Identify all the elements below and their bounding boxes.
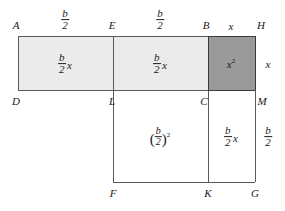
dimension-label-MG: b 2 [264,125,272,149]
vertex-label-G: G [251,188,259,199]
vertex-label-C: C [200,96,207,107]
diagram-canvas [0,0,285,211]
fraction-b-over-2: b 2 [61,8,69,32]
area-factor-x: x [232,132,238,144]
vertex-label-B: B [203,20,210,31]
vertex-label-K: K [204,188,211,199]
dimension-label-EB: b 2 [156,8,164,32]
area-label-CKGM: b 2 x [224,125,238,149]
geometry-diagram: A E B H D L C M F K G b 2 b 2 x x b 2 b … [0,0,285,211]
area-factor-x: x [66,59,72,71]
area-label-LFKC: ( b 2 )2 [150,126,171,148]
dimension-label-AE: b 2 [61,8,69,32]
area-factor-x: x [161,59,167,71]
vertex-label-D: D [12,96,20,107]
fraction-b-over-2: b 2 [153,52,161,76]
fraction-b-over-2: b 2 [155,126,162,148]
vertex-label-E: E [109,20,116,31]
area-exponent-2: 2 [232,57,236,65]
fraction-b-over-2: b 2 [224,125,232,149]
fraction-b-over-2: b 2 [264,125,272,149]
vertex-label-H: H [257,20,265,31]
vertex-label-A: A [13,20,20,31]
vertex-label-L: L [109,96,115,107]
dimension-label-HM: x [266,59,271,70]
area-label-ADLE: b 2 x [58,52,72,76]
fraction-b-over-2: b 2 [156,8,164,32]
vertex-label-F: F [110,188,117,199]
area-exponent-2: 2 [167,131,171,139]
vertex-label-M: M [257,96,266,107]
fraction-b-over-2: b 2 [58,52,66,76]
area-label-BHMC: x2 [227,58,235,70]
dimension-label-BH: x [229,21,234,32]
area-label-ELCB: b 2 x [153,52,167,76]
